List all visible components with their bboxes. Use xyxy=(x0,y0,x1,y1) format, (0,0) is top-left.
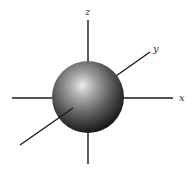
orbital-diagram: z y x xyxy=(0,0,193,173)
y-axis-label: y xyxy=(152,43,159,54)
s-orbital-sphere xyxy=(52,61,124,133)
y-axis-front xyxy=(20,108,73,145)
y-axis-back xyxy=(116,52,150,76)
z-axis-label: z xyxy=(84,6,91,17)
x-axis-label: x xyxy=(179,92,185,103)
